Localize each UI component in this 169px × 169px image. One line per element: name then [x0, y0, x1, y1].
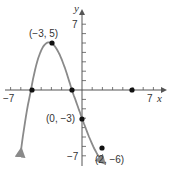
point-root-neg1 — [69, 87, 74, 92]
function-curve — [21, 42, 103, 161]
y-axis-label: y — [73, 2, 79, 14]
x-min-label: −7 — [3, 93, 15, 104]
point-root-neg5 — [29, 87, 34, 92]
point-y-intercept — [79, 116, 84, 121]
point-root-5 — [129, 87, 134, 92]
point-local-min — [99, 145, 104, 150]
function-graph: y 7 −7 −7 7 x (−3, 5) (0, −3) (2, −6) — [0, 0, 169, 169]
point-label-local-max: (−3, 5) — [29, 28, 58, 39]
y-min-label: −7 — [67, 151, 79, 162]
x-axis-label: x — [156, 92, 162, 104]
point-label-y-intercept: (0, −3) — [46, 113, 75, 124]
y-max-label: 7 — [72, 19, 78, 30]
point-local-max — [49, 40, 54, 45]
x-max-label: 7 — [147, 93, 153, 104]
point-label-local-min: (2, −6) — [95, 154, 124, 165]
